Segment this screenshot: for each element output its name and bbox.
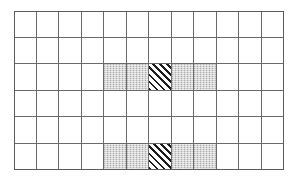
- grid-cell-r2-c4: [82, 38, 105, 65]
- grid-cell-r5-c7: [149, 117, 172, 144]
- grid-cell-r4-c11: [239, 91, 262, 118]
- grid-cell-r3-c7: [149, 64, 172, 91]
- grid-cell-r1-c11: [239, 11, 262, 38]
- grid-cell-r6-c11: [239, 144, 262, 171]
- grid-cell-r2-c1: [14, 38, 37, 65]
- grid-cell-r4-c8: [172, 91, 195, 118]
- grid-cell-r3-c11: [239, 64, 262, 91]
- grid-cell-r4-c9: [194, 91, 217, 118]
- grid-cell-r3-c3: [59, 64, 82, 91]
- grid-cell-r6-c6: [127, 144, 150, 171]
- grid-cell-r6-c2: [37, 144, 60, 171]
- grid-cell-r2-c9: [194, 38, 217, 65]
- grid-cell-r6-c8: [172, 144, 195, 171]
- grid-cell-r1-c10: [217, 11, 240, 38]
- grid-cell-r5-c6: [127, 117, 150, 144]
- grid-cell-r4-c12: [262, 91, 285, 118]
- grid-cell-r2-c2: [37, 38, 60, 65]
- grid-cell-r1-c4: [82, 11, 105, 38]
- grid-cell-r3-c2: [37, 64, 60, 91]
- grid-cell-r1-c5: [104, 11, 127, 38]
- grid-cell-r3-c9: [194, 64, 217, 91]
- grid-cell-r4-c4: [82, 91, 105, 118]
- grid-cell-r5-c8: [172, 117, 195, 144]
- grid-cell-r5-c1: [14, 117, 37, 144]
- grid-cell-r5-c4: [82, 117, 105, 144]
- grid-cell-r3-c10: [217, 64, 240, 91]
- grid-cell-r3-c5: [104, 64, 127, 91]
- grid-cell-r3-c6: [127, 64, 150, 91]
- grid-cell-r6-c1: [14, 144, 37, 171]
- grid-cell-r5-c12: [262, 117, 285, 144]
- grid-cell-r1-c6: [127, 11, 150, 38]
- grid-cell-r2-c11: [239, 38, 262, 65]
- grid-cell-r2-c7: [149, 38, 172, 65]
- grid-cell-r3-c8: [172, 64, 195, 91]
- grid-cell-r6-c9: [194, 144, 217, 171]
- cell-grid: [14, 11, 284, 170]
- grid-cell-r3-c1: [14, 64, 37, 91]
- grid-cell-r5-c11: [239, 117, 262, 144]
- grid-cell-r6-c12: [262, 144, 285, 171]
- grid-cell-r2-c5: [104, 38, 127, 65]
- grid-cell-r1-c7: [149, 11, 172, 38]
- grid-cell-r2-c10: [217, 38, 240, 65]
- grid-cell-r4-c2: [37, 91, 60, 118]
- grid-cell-r4-c1: [14, 91, 37, 118]
- grid-cell-r2-c3: [59, 38, 82, 65]
- grid-cell-r4-c5: [104, 91, 127, 118]
- grid-cell-r4-c10: [217, 91, 240, 118]
- grid-cell-r5-c3: [59, 117, 82, 144]
- grid-cell-r6-c3: [59, 144, 82, 171]
- grid-cell-r3-c12: [262, 64, 285, 91]
- grid-cell-r5-c9: [194, 117, 217, 144]
- grid-cell-r2-c8: [172, 38, 195, 65]
- grid-cell-r5-c2: [37, 117, 60, 144]
- grid-cell-r2-c12: [262, 38, 285, 65]
- figure-root: [0, 0, 297, 183]
- grid-cell-r4-c6: [127, 91, 150, 118]
- grid-cell-r4-c7: [149, 91, 172, 118]
- grid-cell-r1-c3: [59, 11, 82, 38]
- grid-cell-r1-c9: [194, 11, 217, 38]
- grid-cell-r1-c2: [37, 11, 60, 38]
- grid-cell-r4-c3: [59, 91, 82, 118]
- grid-cell-r2-c6: [127, 38, 150, 65]
- grid-cell-r5-c5: [104, 117, 127, 144]
- grid-cell-r6-c5: [104, 144, 127, 171]
- grid-cell-r6-c10: [217, 144, 240, 171]
- grid-cell-r1-c1: [14, 11, 37, 38]
- grid-cell-r1-c12: [262, 11, 285, 38]
- grid-cell-r1-c8: [172, 11, 195, 38]
- grid-cell-r6-c4: [82, 144, 105, 171]
- grid-cell-r6-c7: [149, 144, 172, 171]
- grid-cell-r3-c4: [82, 64, 105, 91]
- grid-cell-r5-c10: [217, 117, 240, 144]
